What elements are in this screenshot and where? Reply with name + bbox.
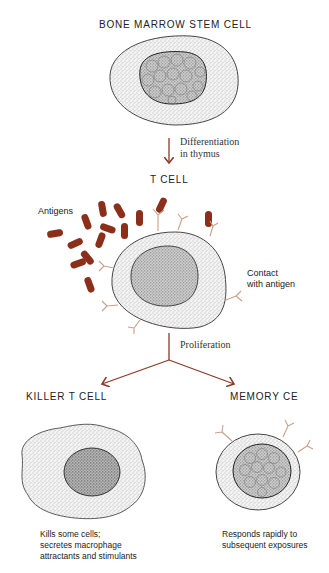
stem-cell-title: BONE MARROW STEM CELL <box>99 19 252 30</box>
killer-t-cell-graphic <box>22 424 145 518</box>
differentiation-line-2: in thymus <box>180 148 239 160</box>
t-cell-diagram: BONE MARROW STEM CELL Differentiation in… <box>0 0 329 573</box>
memory-cell-title: MEMORY CE <box>230 391 299 402</box>
contact-line-2: with antigen <box>247 279 295 290</box>
antigens-label: Antigens <box>38 206 73 217</box>
memory-desc-line-1: Responds rapidly to <box>222 529 308 540</box>
stem-cell-graphic <box>110 36 238 125</box>
killer-desc-line-3: attractants and stimulants <box>40 551 137 562</box>
contact-line-1: Contact <box>247 268 295 279</box>
t-cell-graphic <box>99 209 242 334</box>
memory-desc-line-2: subsequent exposures <box>222 540 308 551</box>
memory-cell-description: Responds rapidly to subsequent exposures <box>222 529 308 551</box>
contact-label: Contact with antigen <box>247 268 295 290</box>
differentiation-line-1: Differentiation <box>180 136 239 148</box>
killer-desc-line-1: Kills some cells; <box>40 529 137 540</box>
proliferation-label: Proliferation <box>180 339 231 351</box>
killer-t-cell-title: KILLER T CELL <box>26 391 107 402</box>
differentiation-label: Differentiation in thymus <box>180 136 239 160</box>
t-cell-title: T CELL <box>150 174 189 185</box>
killer-desc-line-2: secretes macrophage <box>40 540 137 551</box>
killer-t-cell-description: Kills some cells; secretes macrophage at… <box>40 529 137 562</box>
memory-cell-graphic <box>215 420 313 510</box>
